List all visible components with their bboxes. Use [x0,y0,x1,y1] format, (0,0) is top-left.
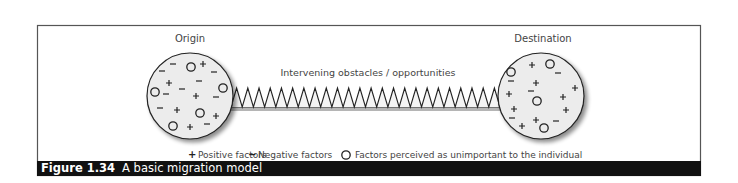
destination-label: Destination [514,33,571,44]
migration-model-figure: Origin Destination Intervening obstacles… [0,0,738,183]
connector-label: Intervening obstacles / opportunities [281,67,456,78]
origin-label: Origin [175,33,205,44]
migration-diagram: Origin Destination Intervening obstacles… [0,0,738,183]
legend-unimportant-label: Factors perceived as unimportant to the … [355,150,582,160]
legend-plus-icon: + [188,149,196,160]
legend-negative-label: Negative factors [258,150,333,160]
figure-caption: Figure 1.34 A basic migration model [37,161,701,176]
legend: + Positive factors − Negative factors Fa… [188,149,582,160]
legend-positive-label: Positive factors [198,150,267,160]
figure-title: A basic migration model [122,161,262,176]
figure-number: Figure 1.34 [41,161,115,176]
legend-minus-icon: − [248,149,256,160]
